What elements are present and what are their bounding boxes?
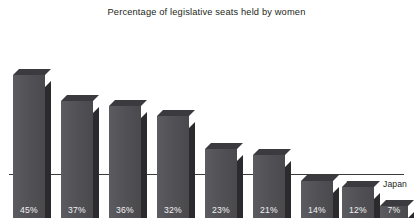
bar-side-face xyxy=(45,81,51,218)
bar-group[interactable]: 21% xyxy=(253,155,285,218)
bar-front-face: 37% xyxy=(61,101,93,218)
bar-group[interactable]: 36% xyxy=(109,106,141,218)
bar-front-face: 23% xyxy=(205,149,237,218)
bar-group[interactable]: 12% xyxy=(342,187,374,218)
bar-value-label: 32% xyxy=(157,205,189,215)
bar-side-face xyxy=(285,161,291,218)
bar-front-face: 14% xyxy=(301,181,333,218)
bar-group[interactable]: 37% xyxy=(61,101,93,218)
bar-side-face xyxy=(189,122,195,218)
bar-group[interactable]: 32% xyxy=(157,116,189,218)
bar-front-face: 32% xyxy=(157,116,189,218)
bar-side-face xyxy=(237,155,243,218)
bar-value-label: 23% xyxy=(205,205,237,215)
bar-group[interactable]: 7% xyxy=(380,206,408,218)
bar-side-face xyxy=(93,107,99,218)
category-label-line1: Japan xyxy=(370,179,418,190)
bar-value-label: 21% xyxy=(253,205,285,215)
bar-value-label: 36% xyxy=(109,205,141,215)
bar-front-face: 21% xyxy=(253,155,285,218)
bar-group[interactable]: 14% xyxy=(301,181,333,218)
bar-front-face: 36% xyxy=(109,106,141,218)
bar-side-face xyxy=(408,212,414,218)
bar-group[interactable]: 45% xyxy=(13,75,45,218)
bar-value-label: 7% xyxy=(380,205,408,215)
bar-front-face: 45% xyxy=(13,75,45,218)
bar-front-face: 7% xyxy=(380,206,408,218)
bar-value-label: 37% xyxy=(61,205,93,215)
category-label-japan: Japan xyxy=(370,179,418,190)
bar-value-label: 45% xyxy=(13,205,45,215)
bar-front-face: 12% xyxy=(342,187,374,218)
bar-group[interactable]: 23% xyxy=(205,149,237,218)
bar-value-label: 14% xyxy=(301,205,333,215)
bar-value-label: 12% xyxy=(342,205,374,215)
bar-side-face xyxy=(141,112,147,218)
